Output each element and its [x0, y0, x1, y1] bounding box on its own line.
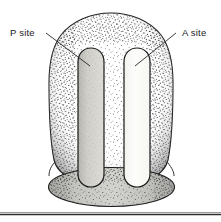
body-stipple-texture — [49, 13, 174, 187]
figure-container: P site A site — [0, 0, 221, 222]
large-subunit-body — [49, 13, 174, 187]
p-site-label: P site — [10, 27, 35, 38]
ribosome-diagram: P site A site — [0, 0, 221, 222]
a-site-slot — [124, 48, 150, 187]
bottom-horizontal-rule — [0, 213, 221, 215]
a-site-label: A site — [182, 27, 206, 38]
p-site-slot — [78, 48, 104, 187]
